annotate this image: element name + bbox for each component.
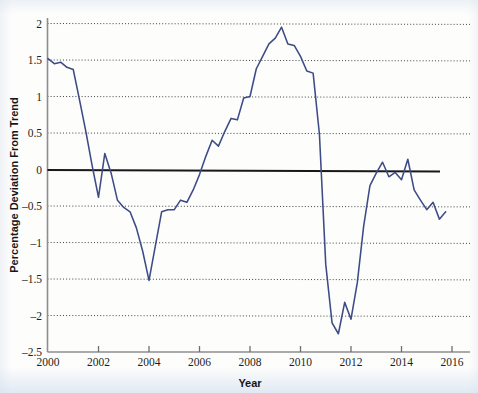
x-tick-label: 2012 — [340, 356, 363, 368]
x-tick-label: 2010 — [289, 356, 312, 368]
gridline — [48, 24, 471, 25]
zero-reference-line — [48, 170, 441, 172]
x-tick-label: 2008 — [239, 356, 262, 368]
y-tick-label: 1 — [36, 91, 42, 103]
y-tick-labels: –2.5–2–1.5–1–0.500.511.52 — [21, 18, 42, 359]
y-tick-label: –0.5 — [21, 200, 42, 212]
axis-lines — [48, 18, 471, 352]
gridline — [48, 133, 471, 134]
y-tick-label: –1 — [30, 237, 43, 249]
x-tick-labels: 200020022004200620082010201220142016 — [37, 356, 464, 368]
line-chart: –2.5–2–1.5–1–0.500.511.52 20002002200420… — [0, 0, 478, 393]
y-axis-title: Percentage Deviation From Trend — [8, 97, 20, 272]
y-tick-label: 2 — [36, 18, 42, 30]
y-tick-label: 0.5 — [28, 127, 43, 139]
gridline — [48, 279, 471, 280]
x-tick-label: 2000 — [37, 356, 60, 368]
tick-marks — [99, 346, 453, 352]
x-tick-label: 2014 — [390, 356, 413, 368]
x-axis-title: Year — [238, 377, 262, 389]
y-tick-label: 0 — [36, 164, 42, 176]
x-tick-label: 2006 — [188, 356, 211, 368]
x-tick-label: 2016 — [441, 356, 464, 368]
x-tick-label: 2002 — [87, 356, 110, 368]
y-tick-label: 1.5 — [28, 54, 43, 66]
gridline — [48, 97, 471, 98]
gridline — [48, 206, 471, 207]
x-tick-label: 2004 — [138, 356, 161, 368]
gridline — [48, 60, 471, 61]
gridline — [48, 316, 471, 317]
data-series-line — [48, 27, 446, 334]
y-tick-label: –2 — [30, 310, 43, 322]
y-tick-label: –1.5 — [21, 273, 42, 285]
gridline — [48, 243, 471, 244]
figure-container: –2.5–2–1.5–1–0.500.511.52 20002002200420… — [0, 0, 478, 393]
